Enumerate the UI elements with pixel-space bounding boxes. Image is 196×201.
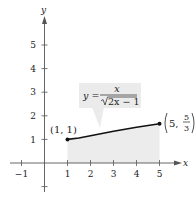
endpoint-end xyxy=(158,122,162,126)
x-tick-label: 5 xyxy=(157,169,163,179)
x-tick-label: −1 xyxy=(15,169,28,179)
endpoint-start xyxy=(66,137,70,141)
x-tick-label: 1 xyxy=(65,169,71,179)
svg-text:3: 3 xyxy=(184,124,189,133)
svg-text:5: 5 xyxy=(184,113,189,122)
y-tick-label: 4 xyxy=(30,64,36,74)
graph: x −1 1 2 3 4 5 y 1 2 3 4 5 (1, 1) 5, 5 3… xyxy=(0,0,196,201)
x-tick-label: 2 xyxy=(88,169,94,179)
x-tick-label: 4 xyxy=(134,169,140,179)
x-tick-label: 3 xyxy=(111,169,117,179)
point-label-start: (1, 1) xyxy=(50,124,77,135)
shaded-region xyxy=(68,124,160,163)
y-tick-label: 3 xyxy=(30,87,36,97)
y-axis xyxy=(42,16,48,192)
y-axis-label: y xyxy=(40,5,47,15)
y-tick-label: 1 xyxy=(30,135,36,145)
svg-text:y =: y = xyxy=(82,90,99,101)
svg-text:5,: 5, xyxy=(169,118,179,129)
y-tick-label: 5 xyxy=(30,40,36,50)
svg-text:2x − 1: 2x − 1 xyxy=(108,96,139,107)
x-axis-label: x xyxy=(183,158,188,168)
point-label-end: 5, 5 3 xyxy=(165,113,194,134)
svg-text:x: x xyxy=(114,83,120,94)
y-tick-label: 2 xyxy=(30,111,36,121)
